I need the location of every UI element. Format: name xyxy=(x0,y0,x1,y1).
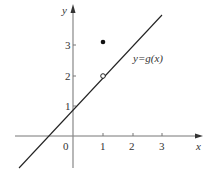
origin-label: 0 xyxy=(63,140,69,152)
filled-point xyxy=(101,40,106,45)
function-line xyxy=(19,15,162,168)
x-axis-arrow-icon xyxy=(195,134,203,139)
x-tick-label-2: 2 xyxy=(129,140,135,152)
function-label: y=g(x) xyxy=(132,52,163,65)
function-graph: y x 0 1 2 3 1 2 3 y=g(x) xyxy=(0,0,212,170)
open-point xyxy=(101,74,106,79)
y-tick-label-1: 1 xyxy=(65,100,71,112)
y-tick-label-3: 3 xyxy=(65,39,71,51)
y-axis-label: y xyxy=(61,4,67,16)
x-axis-label: x xyxy=(195,140,201,152)
y-axis-arrow-icon xyxy=(71,4,76,13)
y-tick-label-2: 2 xyxy=(65,70,71,82)
x-tick-label-3: 3 xyxy=(159,140,165,152)
x-tick-label-1: 1 xyxy=(100,140,106,152)
